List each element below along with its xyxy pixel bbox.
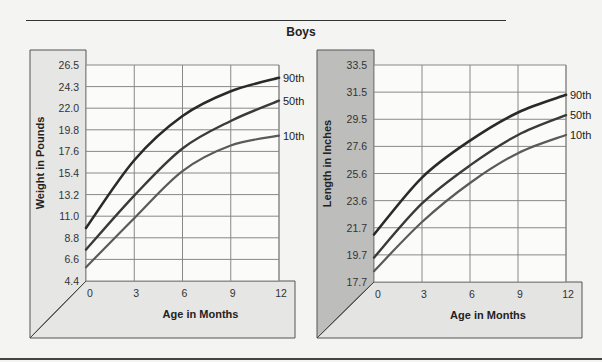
y-tick-label: 21.7 bbox=[347, 222, 368, 234]
x-tick-label: 6 bbox=[182, 287, 188, 299]
x-tick-label: 0 bbox=[87, 287, 93, 299]
x-tick-label: 12 bbox=[275, 287, 287, 299]
series-label-50th: 50th bbox=[283, 95, 304, 107]
y-tick-label: 6.6 bbox=[64, 253, 79, 265]
y-tick-label: 19.8 bbox=[59, 124, 80, 136]
series-label-10th: 10th bbox=[283, 130, 304, 142]
series-label-90th: 90th bbox=[283, 72, 304, 84]
y-tick-label: 22.0 bbox=[59, 102, 80, 114]
y-tick-label: 27.6 bbox=[347, 140, 368, 152]
y-tick-label: 19.7 bbox=[347, 249, 368, 261]
y-tick-label: 13.2 bbox=[59, 189, 80, 201]
y-axis-label: Length in Inches bbox=[321, 120, 333, 207]
y-tick-label: 33.5 bbox=[347, 59, 368, 71]
x-axis-label: Age in Months bbox=[450, 309, 526, 321]
y-tick-label: 17.6 bbox=[59, 145, 80, 157]
y-axis-label: Weight in Pounds bbox=[34, 117, 46, 210]
y-tick-label: 29.5 bbox=[347, 113, 368, 125]
series-label-90th: 90th bbox=[570, 89, 591, 101]
series-label-10th: 10th bbox=[570, 129, 591, 141]
x-tick-label: 9 bbox=[517, 288, 523, 300]
x-tick-label: 3 bbox=[133, 287, 139, 299]
x-axis-label: Age in Months bbox=[163, 308, 239, 320]
y-tick-label: 8.8 bbox=[64, 232, 79, 244]
y-tick-label: 4.4 bbox=[64, 275, 79, 287]
bottom-rule bbox=[0, 358, 602, 360]
x-tick-label: 12 bbox=[562, 288, 574, 300]
x-tick-label: 3 bbox=[421, 288, 427, 300]
y-tick-label: 31.5 bbox=[347, 86, 368, 98]
length-chart: 17.719.721.723.625.627.629.531.533.50369… bbox=[317, 50, 591, 338]
weight-chart: 4.46.68.811.013.215.417.619.822.024.326.… bbox=[30, 50, 304, 338]
series-label-50th: 50th bbox=[570, 109, 591, 121]
y-tick-label: 24.3 bbox=[59, 81, 80, 93]
x-tick-label: 6 bbox=[469, 288, 475, 300]
y-tick-label: 25.6 bbox=[347, 168, 368, 180]
y-tick-label: 23.6 bbox=[347, 195, 368, 207]
x-tick-label: 9 bbox=[230, 287, 236, 299]
y-tick-label: 26.5 bbox=[59, 59, 80, 71]
growth-charts: 4.46.68.811.013.215.417.619.822.024.326.… bbox=[0, 0, 602, 362]
y-tick-label: 15.4 bbox=[59, 167, 80, 179]
y-tick-label: 11.0 bbox=[59, 210, 79, 222]
y-tick-label: 17.7 bbox=[347, 276, 368, 288]
x-tick-label: 0 bbox=[375, 288, 381, 300]
